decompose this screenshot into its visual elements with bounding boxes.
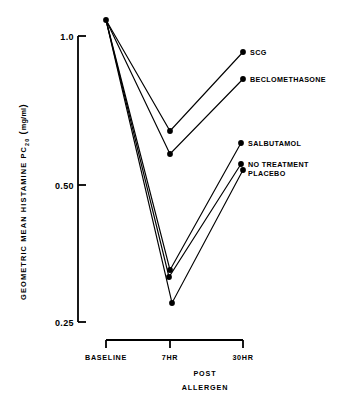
series-scg [103,17,246,134]
data-point [167,128,173,134]
series-line-beclomethasone [106,20,243,154]
x-axis: BASELINE 7HR 30HR [85,340,254,362]
series-line-no-treatment [106,20,241,277]
data-point [238,140,244,146]
y-axis-title-unit: mg/ml [19,108,28,131]
data-point [238,161,244,167]
y-axis-title-main: GEOMETRIC MEAN HISTAMINE PC [19,146,28,300]
figure-container: 1.0 0.50 0.25 GEOMETRIC MEAN HISTAMINE P… [0,0,355,404]
y-axis-title-subscript: 20 [24,138,30,146]
series-label-no-treatment: NO TREATMENT [248,160,309,169]
x-axis-caption-line-2: ALLERGEN [182,383,229,392]
series-label-beclomethasone: BECLOMETHASONE [250,75,326,84]
x-tick-label-7hr: 7HR [162,353,179,362]
data-point [240,49,246,55]
data-point [240,76,246,82]
series-beclomethasone [106,20,246,157]
data-point [169,300,175,306]
x-axis-caption: POST ALLERGEN [182,369,229,392]
x-tick-label-baseline: BASELINE [85,353,127,362]
series-line-salbutamol [106,20,241,270]
series-label-placebo: PLACEBO [248,169,286,178]
series-label-salbutamol: SALBUTAMOL [248,139,302,148]
svg-text:GEOMETRIC MEAN HISTAMINE PC20(: GEOMETRIC MEAN HISTAMINE PC20(mg/ml) [17,103,30,300]
series-label-scg: SCG [250,48,267,57]
y-tick-label-1.0: 1.0 [60,32,74,42]
y-tick-label-0.50: 0.50 [55,181,74,191]
y-axis: 1.0 0.50 0.25 [55,32,86,328]
line-chart: 1.0 0.50 0.25 GEOMETRIC MEAN HISTAMINE P… [0,0,355,404]
y-axis-title: GEOMETRIC MEAN HISTAMINE PC20(mg/ml) [17,103,30,300]
series-line-scg [106,20,243,131]
x-axis-caption-line-1: POST [193,369,216,378]
series-no-treatment [106,20,244,280]
data-point [240,167,246,173]
data-point [167,151,173,157]
series-salbutamol [106,20,244,273]
y-tick-label-0.25: 0.25 [55,318,74,328]
x-tick-label-30hr: 30HR [232,353,253,362]
